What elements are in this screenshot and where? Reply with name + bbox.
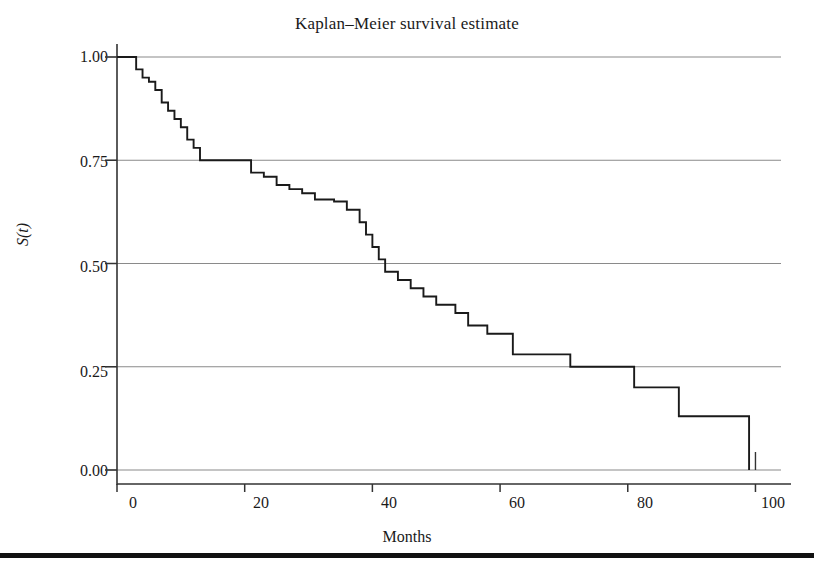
page-footer-rule [0,553,814,558]
kaplan-meier-figure: Kaplan–Meier survival estimate S(t) 1.00… [0,0,814,576]
chart-plot-area [0,0,814,576]
axis-lines-group [117,44,791,485]
axis-ticks-group [105,57,755,492]
